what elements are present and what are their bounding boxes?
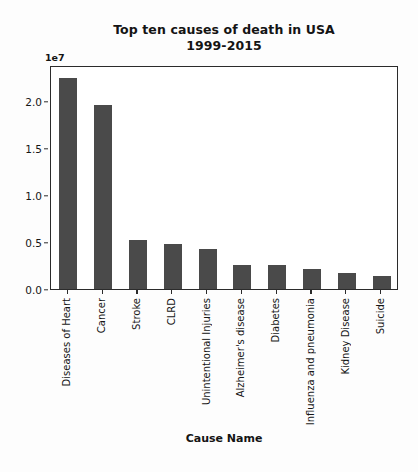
x-axis-tick-label: Influenza and pneumonia	[305, 298, 316, 425]
y-axis-tick-mark	[44, 289, 48, 290]
x-axis-tick-label: Diseases of Heart	[61, 298, 72, 386]
x-axis-tick-mark	[241, 290, 242, 294]
x-axis-title: Cause Name	[50, 432, 398, 445]
x-axis-tick-label: Stroke	[131, 298, 142, 330]
y-axis-tick-label: 1.0	[2, 190, 42, 202]
x-axis-tick-mark	[276, 290, 277, 294]
bars-layer	[51, 67, 397, 289]
x-axis-tick-mark	[206, 290, 207, 294]
y-axis-tick-mark	[44, 101, 48, 102]
x-axis-tick-label: Suicide	[375, 298, 386, 334]
chart-figure: Top ten causes of death in USA 1999-2015…	[0, 0, 418, 472]
bar	[303, 269, 321, 289]
bar	[233, 265, 251, 289]
x-axis-tick-mark	[102, 290, 103, 294]
x-axis-tick-label: Diabetes	[270, 298, 281, 342]
x-axis-tick-label: Alzheimer's disease	[235, 298, 246, 397]
x-axis-tick-mark	[67, 290, 68, 294]
bar	[129, 240, 147, 289]
x-axis-tick-label: Kidney Disease	[340, 298, 351, 375]
bar	[94, 105, 112, 289]
bar	[373, 276, 391, 289]
bar	[59, 78, 77, 289]
y-axis-tick-label: 1.5	[2, 143, 42, 155]
x-axis-tick-mark	[345, 290, 346, 294]
chart-title-line-1: Top ten causes of death in USA	[113, 22, 335, 37]
y-axis-tick-label: 2.0	[2, 96, 42, 108]
y-axis-tick-mark	[44, 195, 48, 196]
y-axis-tick-label: 0.5	[2, 237, 42, 249]
y-axis-exponent-label: 1e7	[45, 52, 65, 63]
bar	[164, 244, 182, 289]
x-axis-tick-label: Unintentional Injuries	[201, 298, 212, 405]
bar	[199, 249, 217, 289]
chart-title: Top ten causes of death in USA 1999-2015	[50, 22, 398, 54]
plot-area	[50, 66, 398, 290]
chart-title-line-2: 1999-2015	[50, 38, 398, 54]
x-axis-tick-mark	[310, 290, 311, 294]
x-axis-tick-label: Cancer	[96, 298, 107, 333]
x-axis-tick-mark	[171, 290, 172, 294]
bar	[338, 273, 356, 289]
x-axis-tick-mark	[380, 290, 381, 294]
bar	[268, 265, 286, 289]
x-axis-tick-label: CLRD	[166, 298, 177, 325]
x-axis-tick-mark	[136, 290, 137, 294]
y-axis-tick-mark	[44, 242, 48, 243]
y-axis-tick-label: 0.0	[2, 284, 42, 296]
y-axis-tick-mark	[44, 148, 48, 149]
